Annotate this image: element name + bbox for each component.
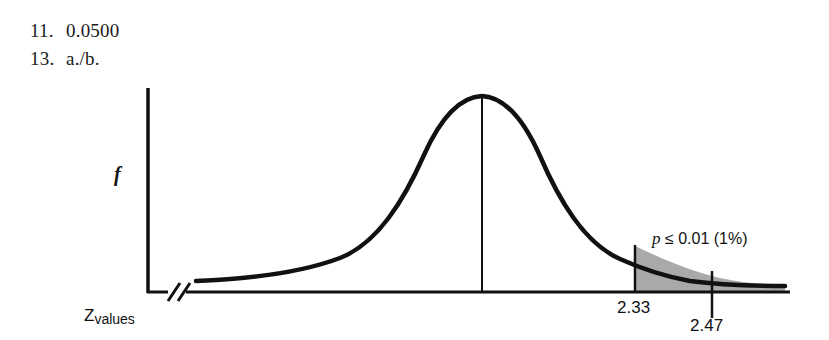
tick-label-233: 2.33 bbox=[617, 298, 650, 318]
tick-label-247: 2.47 bbox=[690, 316, 723, 336]
x-axis-label-main: Z bbox=[84, 306, 94, 325]
y-axis-label: f bbox=[114, 163, 121, 186]
p-symbol: p bbox=[652, 229, 661, 248]
figure-page: 11.0.0500 13.a./b. f Zvalue bbox=[0, 0, 829, 340]
p-value-text: ≤ 0.01 (1%) bbox=[661, 230, 748, 247]
density-curve bbox=[196, 96, 785, 286]
x-axis-label: Zvalues bbox=[84, 306, 135, 327]
p-value-annotation: p ≤ 0.01 (1%) bbox=[652, 229, 748, 249]
x-axis-label-subscript: values bbox=[94, 311, 134, 327]
normal-distribution-figure bbox=[0, 0, 829, 340]
